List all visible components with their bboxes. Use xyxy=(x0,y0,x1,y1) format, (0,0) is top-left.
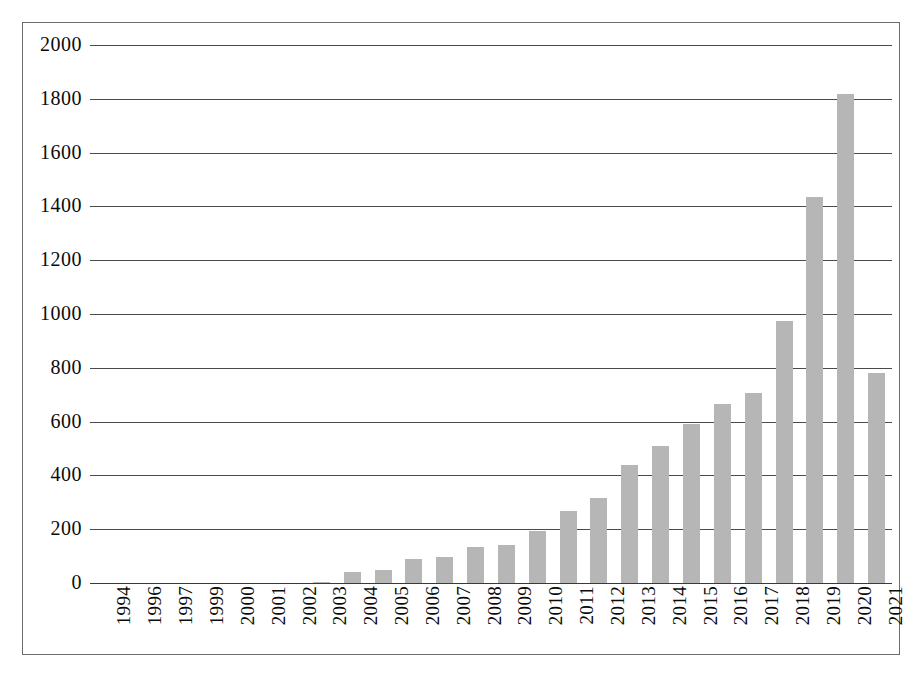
x-tick-label-2011: 2011 xyxy=(577,586,597,654)
bar-2020 xyxy=(837,94,854,583)
bar-2014 xyxy=(652,446,669,583)
x-tick-label-2004: 2004 xyxy=(361,586,381,654)
x-tick-label-2001: 2001 xyxy=(269,586,289,654)
x-axis-tick-labels: 1994199619971999200020012002200320042005… xyxy=(90,586,892,654)
y-tick-label-400: 400 xyxy=(22,464,82,484)
x-tick-label-1996: 1996 xyxy=(145,586,165,654)
bar-2021 xyxy=(868,373,885,583)
x-tick-label-1994: 1994 xyxy=(114,586,134,654)
bar-2004 xyxy=(344,572,361,583)
bar-2013 xyxy=(621,465,638,583)
x-tick-label-1999: 1999 xyxy=(207,586,227,654)
y-tick-label-1600: 1600 xyxy=(22,142,82,162)
x-tick-label-2019: 2019 xyxy=(824,586,844,654)
y-tick-label-1800: 1800 xyxy=(22,88,82,108)
y-tick-label-1000: 1000 xyxy=(22,303,82,323)
bar-2011 xyxy=(560,511,577,583)
bar-series xyxy=(90,45,892,583)
x-tick-label-2002: 2002 xyxy=(300,586,320,654)
bar-2012 xyxy=(590,498,607,583)
x-tick-label-2014: 2014 xyxy=(670,586,690,654)
bar-2010 xyxy=(529,531,546,583)
x-tick-label-2016: 2016 xyxy=(731,586,751,654)
y-tick-label-2000: 2000 xyxy=(22,34,82,54)
x-tick-label-2021: 2021 xyxy=(886,586,906,654)
x-tick-label-2020: 2020 xyxy=(855,586,875,654)
bar-2019 xyxy=(806,197,823,583)
x-tick-label-2006: 2006 xyxy=(423,586,443,654)
y-tick-label-1200: 1200 xyxy=(22,249,82,269)
bar-2016 xyxy=(714,404,731,583)
y-tick-label-0: 0 xyxy=(22,572,82,592)
x-tick-label-2003: 2003 xyxy=(330,586,350,654)
bar-2003 xyxy=(313,582,330,583)
x-tick-label-2009: 2009 xyxy=(515,586,535,654)
x-tick-label-2018: 2018 xyxy=(793,586,813,654)
bar-2009 xyxy=(498,545,515,583)
x-tick-label-2010: 2010 xyxy=(546,586,566,654)
x-tick-label-1997: 1997 xyxy=(176,586,196,654)
bar-2006 xyxy=(405,559,422,583)
bar-chart-figure: 0200400600800100012001400160018002000 19… xyxy=(0,0,922,675)
x-tick-label-2005: 2005 xyxy=(392,586,412,654)
bar-2018 xyxy=(776,321,793,583)
x-tick-label-2008: 2008 xyxy=(485,586,505,654)
x-tick-label-2015: 2015 xyxy=(701,586,721,654)
x-tick-label-2012: 2012 xyxy=(608,586,628,654)
x-tick-label-2013: 2013 xyxy=(639,586,659,654)
plot-area xyxy=(90,45,892,583)
y-tick-label-600: 600 xyxy=(22,411,82,431)
bar-2005 xyxy=(375,570,392,583)
bar-2017 xyxy=(745,393,762,583)
x-tick-label-2000: 2000 xyxy=(238,586,258,654)
y-axis-tick-labels: 0200400600800100012001400160018002000 xyxy=(22,45,82,583)
bar-2015 xyxy=(683,424,700,583)
x-tick-label-2017: 2017 xyxy=(762,586,782,654)
bar-2007 xyxy=(436,557,453,583)
y-tick-label-800: 800 xyxy=(22,357,82,377)
bar-2008 xyxy=(467,547,484,583)
y-tick-label-1400: 1400 xyxy=(22,195,82,215)
y-tick-label-200: 200 xyxy=(22,518,82,538)
gridline-0 xyxy=(90,583,892,584)
x-tick-label-2007: 2007 xyxy=(454,586,474,654)
